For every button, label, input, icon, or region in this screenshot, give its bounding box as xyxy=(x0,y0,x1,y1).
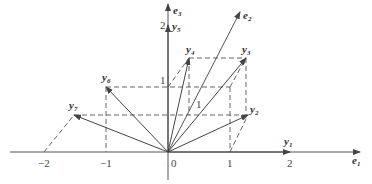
tick-x-1: 1 xyxy=(227,157,233,169)
label-y3: y3 xyxy=(240,43,251,57)
vector-y3 xyxy=(168,58,246,152)
tick-origin: 0 xyxy=(171,157,177,169)
label-y4: y4 xyxy=(184,43,195,57)
tick-z-1: 1 xyxy=(160,74,166,86)
tick-x-2: 2 xyxy=(287,157,293,169)
diagram-svg: e1 e2 e3 −2 −1 0 1 2 1 2 1 y1 y2 y3 y4 y… xyxy=(0,0,372,184)
vector-y7 xyxy=(74,115,168,152)
tick-x-neg1: −1 xyxy=(100,157,112,169)
tick-z-2: 2 xyxy=(160,19,166,31)
label-y2: y2 xyxy=(248,103,259,117)
label-y7: y7 xyxy=(67,99,78,113)
e1-label: e1 xyxy=(352,154,360,168)
label-y6: y6 xyxy=(100,71,111,85)
vector-diagram: e1 e2 e3 −2 −1 0 1 2 1 2 1 y1 y2 y3 y4 y… xyxy=(0,0,372,184)
tick-x-neg2: −2 xyxy=(38,157,50,169)
e2-label: e2 xyxy=(243,9,252,23)
vector-y6 xyxy=(106,87,168,152)
label-y5: y5 xyxy=(170,20,181,34)
label-y1: y1 xyxy=(282,135,292,149)
e3-label: e3 xyxy=(173,4,182,18)
vector-y2 xyxy=(168,115,248,152)
tick-e2-1: 1 xyxy=(196,98,202,110)
